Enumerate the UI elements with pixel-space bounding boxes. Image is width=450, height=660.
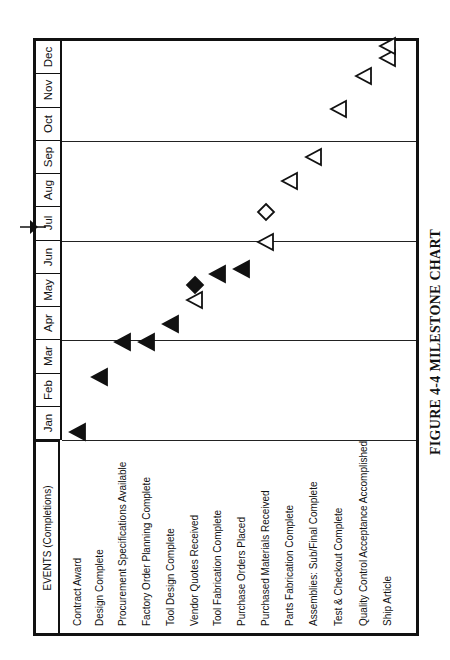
month-label: Dec (42, 47, 54, 67)
event-label: Ship Article (382, 576, 393, 626)
filled-triangle-icon (112, 331, 134, 353)
events-header: EVENTS (Completions) (36, 440, 60, 633)
event-label: Purchased Materials Received (260, 490, 271, 626)
month-sep: Sep (36, 141, 60, 174)
filled-triangle-icon (67, 421, 89, 443)
hollow-triangle-icon (328, 98, 350, 120)
hollow-triangle-icon (353, 65, 375, 87)
month-label: Nov (42, 80, 54, 100)
month-label: Jun (42, 247, 54, 266)
month-label: May (42, 279, 54, 301)
event-label: Assemblies: Sub/Final Complete (308, 481, 319, 626)
month-axis: JanFebMarAprMayJunJulAugSepOctNovDec (36, 41, 62, 440)
event-label: Purchase Orders Placed (236, 517, 247, 626)
event-label: Procurement Specifications Available (117, 462, 128, 626)
event-label: Parts Fabrication Complete (284, 505, 295, 626)
event-label: Tool Design Complete (165, 528, 176, 626)
filled-triangle-icon (160, 313, 182, 335)
month-label: Feb (42, 380, 54, 400)
status-date-arrow-icon (20, 220, 46, 234)
event-label: Factory Order Planning Complete (141, 477, 152, 626)
month-nov: Nov (36, 74, 60, 107)
hollow-triangle-icon (255, 231, 277, 253)
month-label: Sep (42, 147, 54, 167)
hollow-triangle-icon (279, 170, 301, 192)
month-jun: Jun (36, 241, 60, 274)
hollow-diamond-icon (255, 201, 277, 223)
milestone-chart-frame: JanFebMarAprMayJunJulAugSepOctNovDec EVE… (33, 38, 419, 636)
event-label: Contract Award (72, 558, 83, 626)
month-oct: Oct (36, 108, 60, 141)
figure-caption: FIGURE 4-4 MILESTONE CHART (428, 229, 444, 455)
month-label: Jan (42, 414, 54, 433)
month-mar: Mar (36, 340, 60, 373)
month-label: Oct (42, 115, 54, 133)
month-dec: Dec (36, 41, 60, 74)
hollow-triangle-icon (377, 35, 399, 57)
quarter-gridline (62, 241, 416, 242)
event-label: Test & Checkout Complete (333, 508, 344, 626)
month-label: Apr (42, 314, 54, 332)
filled-triangle-icon (207, 263, 229, 285)
quarter-gridline (62, 141, 416, 142)
event-label: Vendor Quotes Received (189, 515, 200, 626)
hollow-triangle-icon (303, 146, 325, 168)
month-apr: Apr (36, 307, 60, 340)
events-header-label: EVENTS (Completions) (42, 485, 53, 590)
filled-triangle-icon (231, 258, 253, 280)
event-label: Quality Control Acceptance Accomplished (358, 441, 369, 626)
month-label: Aug (42, 180, 54, 200)
month-feb: Feb (36, 374, 60, 407)
month-jan: Jan (36, 407, 60, 440)
month-label: Mar (42, 346, 54, 366)
month-aug: Aug (36, 174, 60, 207)
month-may: May (36, 274, 60, 307)
event-label: Design Complete (94, 549, 105, 626)
filled-triangle-icon (136, 331, 158, 353)
filled-triangle-icon (89, 366, 111, 388)
event-label: Tool Fabrication Complete (212, 510, 223, 626)
filled-diamond-icon (184, 274, 206, 296)
